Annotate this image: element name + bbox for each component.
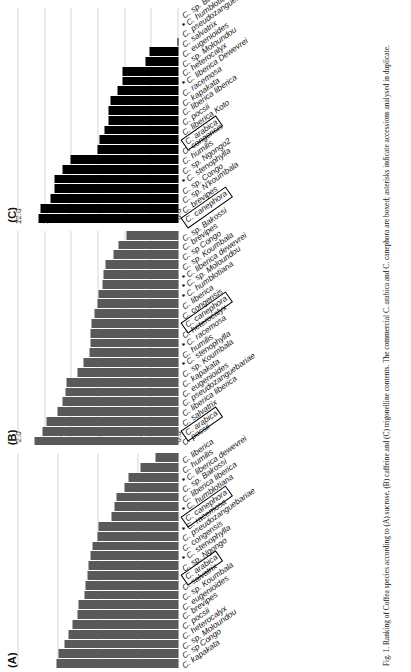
bar xyxy=(77,368,178,377)
bar xyxy=(54,175,178,184)
bar xyxy=(83,358,178,367)
bar xyxy=(108,106,178,115)
panel-b-plot-wrap: 0.02.04.06.08.010.012.0 C. pocsiiC. arab… xyxy=(18,231,334,446)
bar xyxy=(124,483,178,492)
panel-a-plot: 0.00.51.01.52.0 xyxy=(18,453,178,668)
bar xyxy=(62,397,178,406)
figure: (A) 0.00.51.01.52.0 C. kapakataC. sp Con… xyxy=(0,0,411,672)
bar xyxy=(145,57,178,66)
bar xyxy=(122,67,178,76)
bar xyxy=(42,427,178,436)
bar xyxy=(110,96,178,105)
bar xyxy=(40,204,178,213)
bar xyxy=(102,280,178,289)
panel-row: (A) 0.00.51.01.52.0 C. kapakataC. sp Con… xyxy=(0,0,381,672)
bar xyxy=(114,502,178,511)
panel-c-bars xyxy=(18,8,178,223)
bar xyxy=(140,463,178,472)
bar xyxy=(155,453,178,462)
bar xyxy=(105,260,178,269)
bar xyxy=(117,87,178,96)
panel-a-bars xyxy=(18,453,178,668)
bar xyxy=(34,437,178,446)
bar xyxy=(88,561,178,570)
bar xyxy=(64,640,178,649)
bar xyxy=(118,241,178,250)
bar xyxy=(65,388,178,397)
bar xyxy=(90,339,178,348)
bar xyxy=(85,581,178,590)
bar xyxy=(122,77,178,86)
panel-c-plot: 0.00.51.01.52.02.53.0 xyxy=(18,8,178,223)
bar xyxy=(92,542,178,551)
panel-c-plot-wrap: 0.00.51.01.52.02.53.0 C. canephoraC. bre… xyxy=(18,8,334,223)
bar xyxy=(57,407,178,416)
bar xyxy=(113,250,178,259)
panel-b: (B) 0.02.04.06.08.010.012.0 C. pocsiiC. … xyxy=(4,225,334,448)
bar xyxy=(149,47,178,56)
bar xyxy=(111,512,178,521)
bar xyxy=(72,620,178,629)
bar xyxy=(97,145,178,154)
bar xyxy=(103,270,178,279)
bar xyxy=(78,600,178,609)
bar xyxy=(58,649,178,658)
bar xyxy=(108,116,178,125)
figure-stage: (A) 0.00.51.01.52.0 C. kapakataC. sp Con… xyxy=(0,0,411,672)
panel-c-axis: 0.00.51.01.52.02.53.0 xyxy=(18,0,178,8)
bar xyxy=(38,214,178,223)
bar xyxy=(98,522,178,531)
panel-a-tag: (A) xyxy=(4,447,18,670)
bar xyxy=(94,309,178,318)
panel-a-plot-wrap: 0.00.51.01.52.0 C. kapakataC. sp CongoC.… xyxy=(18,453,334,668)
bar xyxy=(99,135,178,144)
figure-caption: Fig. 1. Ranking of Coffea species accord… xyxy=(381,0,411,672)
bar xyxy=(62,165,178,174)
panel-b-tag: (B) xyxy=(4,225,18,448)
bar xyxy=(70,155,178,164)
bar xyxy=(90,551,178,560)
bar xyxy=(104,126,178,135)
panel-b-bars xyxy=(18,231,178,446)
bar xyxy=(126,231,178,240)
panel-b-plot: 0.02.04.06.08.010.012.0 xyxy=(18,231,178,446)
bar xyxy=(98,290,178,299)
bar xyxy=(77,610,178,619)
panel-a-category-labels: C. kapakataC. sp CongoC. sp. MoloundouC.… xyxy=(178,453,330,668)
bar xyxy=(116,493,178,502)
bar xyxy=(87,571,178,580)
bar xyxy=(66,378,178,387)
bar xyxy=(97,299,178,308)
bar xyxy=(97,532,178,541)
panel-c: (C) 0.00.51.01.52.02.53.0 C. canephoraC.… xyxy=(4,2,334,225)
bar xyxy=(128,473,178,482)
bar xyxy=(46,417,178,426)
bar xyxy=(89,348,178,357)
panel-c-category-labels: C. canephoraC. brevipesC. sp. N'koumbala… xyxy=(178,8,330,223)
bar xyxy=(91,319,178,328)
bar xyxy=(84,591,178,600)
bar xyxy=(90,329,178,338)
panel-a: (A) 0.00.51.01.52.0 C. kapakataC. sp Con… xyxy=(4,447,334,670)
panel-b-category-labels: C. pocsiiC. arabicaC. salvatrixC. liberi… xyxy=(178,231,330,446)
panel-c-tag: (C) xyxy=(4,2,18,225)
bar xyxy=(54,184,178,193)
bar xyxy=(68,630,178,639)
bar xyxy=(50,194,178,203)
bar xyxy=(56,659,178,668)
